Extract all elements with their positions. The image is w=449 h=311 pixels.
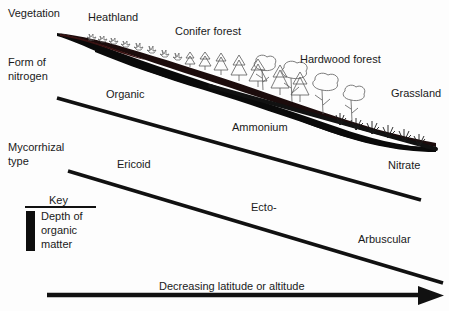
row-label-vegetation: Vegetation bbox=[8, 7, 60, 19]
nitrogen-label-organic: Organic bbox=[106, 88, 145, 100]
nitrogen-label-nitrate: Nitrate bbox=[388, 159, 420, 171]
heath-shrub bbox=[109, 38, 118, 44]
vegetation-label-grassland: Grassland bbox=[391, 87, 441, 99]
conifer-tree bbox=[249, 59, 267, 87]
row-label-mycorrhizal-type-line2: type bbox=[8, 155, 29, 167]
heath-shrub bbox=[160, 50, 169, 57]
mycorrhizal-label-ecto: Ecto- bbox=[251, 201, 277, 213]
key-item-label-line1: Depth of bbox=[41, 210, 83, 223]
mycorrhizal-band-divider bbox=[68, 171, 443, 283]
heath-shrub bbox=[121, 41, 130, 47]
diagram-vector-layer bbox=[0, 0, 449, 311]
conifer-tree bbox=[271, 65, 289, 95]
vegetation-label-hardwood-forest: Hardwood forest bbox=[300, 53, 381, 65]
heath-shrub bbox=[173, 53, 182, 60]
conifer-tree bbox=[231, 55, 247, 81]
nitrogen-label-ammonium: Ammonium bbox=[232, 121, 288, 133]
row-label-mycorrhizal-type-line1: Mycorrhizal bbox=[8, 141, 64, 153]
mycorrhizal-label-arbuscular: Arbuscular bbox=[358, 233, 411, 245]
mycorrhizal-label-ericoid: Ericoid bbox=[117, 158, 151, 170]
gradient-arrow-label: Decreasing latitude or altitude bbox=[159, 280, 305, 292]
diagram-canvas: Vegetation Form of nitrogen Mycorrhizal … bbox=[0, 0, 449, 311]
key-swatch-organic-depth bbox=[26, 211, 35, 251]
hardwood-tree bbox=[313, 73, 338, 114]
key-item-label-line3: matter bbox=[41, 238, 72, 251]
key-title: Key bbox=[49, 194, 68, 206]
row-label-form-of-nitrogen-line2: nitrogen bbox=[8, 70, 48, 82]
conifer-tree bbox=[214, 53, 228, 75]
hardwood-tree bbox=[343, 85, 365, 121]
vegetation-label-heathland: Heathland bbox=[88, 11, 138, 23]
conifer-tree bbox=[185, 52, 195, 67]
vegetation-label-conifer-forest: Conifer forest bbox=[175, 25, 241, 37]
conifer-tree bbox=[199, 52, 211, 70]
row-label-form-of-nitrogen-line1: Form of bbox=[8, 56, 46, 68]
heath-shrub bbox=[134, 43, 143, 50]
key-item-label-line2: organic bbox=[41, 224, 77, 237]
heath-shrub bbox=[147, 46, 156, 53]
conifer-tree bbox=[291, 72, 309, 102]
